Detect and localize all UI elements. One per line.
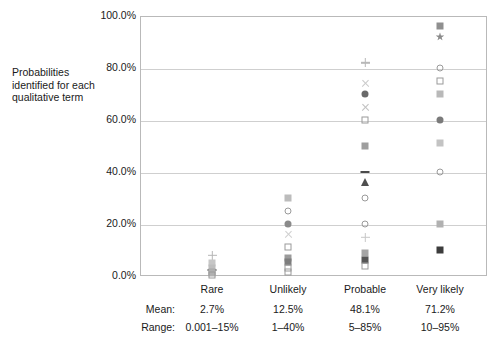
y-tick-label: 60.0%	[88, 113, 136, 125]
data-point	[285, 195, 292, 202]
y-tick-label: 20.0%	[88, 217, 136, 229]
scatter-chart-figure: Probabilities identified for each qualit…	[0, 0, 495, 343]
data-point	[361, 171, 370, 173]
gridline	[141, 69, 486, 70]
data-point	[361, 233, 370, 242]
data-point	[437, 23, 444, 30]
data-point	[361, 58, 370, 67]
y-tick-label: 100.0%	[88, 9, 136, 21]
y-tick-label: 0.0%	[88, 269, 136, 281]
data-point	[361, 178, 369, 186]
category-label-very-likely: Very likely	[416, 283, 463, 295]
data-point	[437, 91, 444, 98]
table-cell: 71.2%	[425, 303, 455, 315]
data-point	[284, 230, 293, 239]
data-point	[437, 169, 444, 176]
table-cell: 48.1%	[350, 303, 380, 315]
data-point	[362, 195, 369, 202]
data-point	[209, 271, 216, 278]
gridline	[141, 173, 486, 174]
data-point	[437, 221, 444, 228]
data-point	[208, 251, 217, 260]
gridline	[141, 225, 486, 226]
data-point	[437, 78, 444, 85]
data-point	[362, 249, 369, 256]
table-row-label-mean: Mean:	[146, 303, 175, 315]
data-point	[437, 140, 444, 147]
data-point	[285, 221, 292, 228]
y-tick-label: 80.0%	[88, 61, 136, 73]
category-label-unlikely: Unlikely	[270, 283, 307, 295]
gridline	[141, 121, 486, 122]
y-tick-label: 40.0%	[88, 165, 136, 177]
data-point	[362, 221, 369, 228]
category-label-rare: Rare	[201, 283, 224, 295]
category-label-probable: Probable	[344, 283, 386, 295]
table-cell: 1–40%	[272, 321, 305, 333]
table-cell: 10–95%	[421, 321, 460, 333]
data-point	[285, 269, 292, 276]
data-point	[285, 244, 292, 251]
data-point	[437, 117, 444, 124]
data-point	[437, 65, 444, 72]
table-cell: 0.001–15%	[185, 321, 238, 333]
data-point	[361, 103, 370, 112]
data-point	[285, 208, 292, 215]
data-point	[362, 91, 369, 98]
data-point	[362, 262, 369, 269]
data-point	[361, 79, 370, 88]
data-point	[362, 117, 369, 124]
table-cell: 2.7%	[200, 303, 224, 315]
table-row-label-range: Range:	[141, 321, 175, 333]
data-point	[437, 247, 444, 254]
table-cell: 5–85%	[349, 321, 382, 333]
data-point	[362, 143, 369, 150]
plot-area	[140, 16, 487, 276]
table-cell: 12.5%	[273, 303, 303, 315]
